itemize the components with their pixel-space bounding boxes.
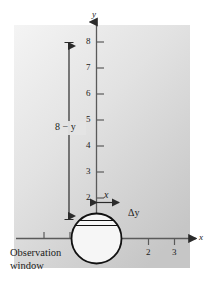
y-tick-label-6: 6 — [86, 89, 91, 98]
half-width-label: x — [104, 190, 108, 200]
y-tick-label-8: 8 — [86, 37, 91, 46]
caption-line-2: window — [10, 260, 44, 273]
y-tick-label-2: 2 — [86, 193, 91, 202]
y-tick-label-4: 4 — [86, 141, 91, 150]
depth-label: 8 − y — [55, 122, 76, 132]
x-axis-label: x — [199, 233, 203, 242]
delta-y-label: Δy — [128, 208, 139, 218]
y-tick-label-7: 7 — [86, 63, 91, 72]
x-tick-label-3: 3 — [172, 248, 177, 257]
y-axis-label: y — [92, 10, 96, 19]
y-tick-label-3: 3 — [86, 167, 91, 176]
y-tick-label-5: 5 — [86, 115, 91, 124]
fluid-force-diagram — [0, 0, 211, 284]
caption-line-1: Observation — [10, 247, 61, 260]
x-tick-label-2: 2 — [146, 248, 151, 257]
